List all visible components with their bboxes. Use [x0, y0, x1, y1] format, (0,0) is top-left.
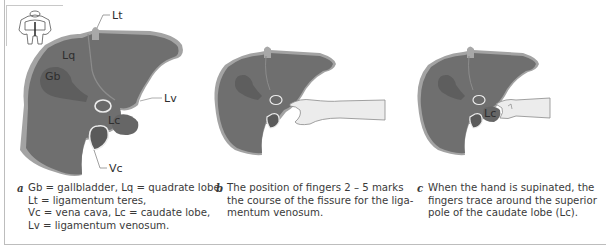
- caption-b: b The position of fingers 2 – 5 marks th…: [216, 182, 413, 220]
- liver-diagram-c: Lc: [417, 47, 550, 156]
- caption-letter-b: b: [216, 182, 223, 195]
- caption-a: a Gb = gallbladder, Lq = quadrate lobe, …: [17, 182, 223, 232]
- caption-a-line-4: Lv = ligamentum venosum.: [28, 220, 223, 233]
- caption-c-line-2: fingers trace around the superior: [428, 195, 597, 208]
- liver-diagram-b: [214, 47, 385, 156]
- caption-b-line-2: the course of the fissure for the liga-: [227, 195, 413, 208]
- label-lq: Lq: [62, 49, 75, 62]
- caption-letter-a: a: [17, 182, 24, 195]
- liver-diagram-a: Lt Lq Gb Lv Lc Vc: [20, 9, 183, 176]
- caption-a-line-1: Gb = gallbladder, Lq = quadrate lobe,: [28, 182, 223, 195]
- label-gb: Gb: [45, 70, 61, 83]
- caption-c: c When the hand is supinated, the finger…: [417, 182, 597, 220]
- caption-b-line-1: The position of fingers 2 – 5 marks: [227, 182, 413, 195]
- liver-illustrations: Lt Lq Gb Lv Lc Vc Lc: [0, 0, 605, 180]
- label-lt: Lt: [112, 9, 123, 22]
- caption-a-line-3: Vc = vena cava, Lc = caudate lobe,: [28, 207, 223, 220]
- label-vc: Vc: [109, 162, 123, 175]
- label-lv: Lv: [164, 92, 177, 105]
- caption-b-line-3: mentum venosum.: [227, 207, 413, 220]
- label-lc: Lc: [108, 114, 120, 127]
- caption-letter-c: c: [417, 182, 423, 195]
- caption-a-line-2: Lt = ligamentum teres,: [28, 195, 223, 208]
- caption-c-line-3: pole of the caudate lobe (Lc).: [428, 207, 597, 220]
- label-lc-c: Lc: [484, 107, 496, 120]
- caption-c-line-1: When the hand is supinated, the: [428, 182, 597, 195]
